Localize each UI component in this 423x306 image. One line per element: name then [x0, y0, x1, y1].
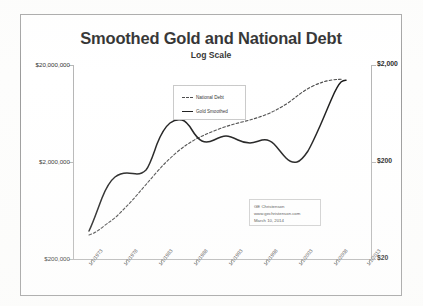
attribution-author: GE Christenson: [254, 203, 316, 210]
legend-label-national-debt: National Debt: [196, 95, 224, 100]
y-tick-right-200: [372, 162, 376, 163]
y-axis-left-label-0: $20,000,000: [36, 61, 70, 68]
y-axis-right-label-0: $2,000: [377, 60, 398, 67]
y-axis-left-label-1: $2,000,000: [39, 158, 70, 165]
x-axis-line: [73, 259, 372, 260]
y-axis-left-labels: $20,000,000 $2,000,000 $200,000: [21, 15, 70, 306]
legend-label-gold-smoothed: Gold Smoothed: [196, 109, 228, 114]
y-axis-right-label-1: $200: [377, 157, 392, 164]
attribution-date: March 10, 2014: [254, 217, 316, 224]
x-axis-labels: 1/1/1973 1/1/1978 1/1/1983 1/1/1988 1/1/…: [73, 261, 372, 306]
legend-item-national-debt: National Debt: [182, 92, 224, 102]
legend-swatch-gold-smoothed: [182, 111, 193, 112]
legend-item-gold-smoothed: Gold Smoothed: [182, 106, 228, 116]
attribution-website: www.gechristenson.com: [254, 210, 316, 217]
y-axis-left-label-2: $200,000: [44, 255, 70, 262]
chart-subtitle: Log Scale: [21, 50, 401, 60]
chart-page: Smoothed Gold and National Debt Log Scal…: [0, 0, 423, 306]
attribution-box: GE Christenson www.gechristenson.com Mar…: [249, 199, 321, 226]
y-tick-right-2000: [372, 65, 376, 66]
chart-legend: National Debt Gold Smoothed: [173, 85, 246, 120]
page-title: Smoothed Gold and National Debt: [21, 29, 401, 48]
legend-swatch-national-debt: [182, 97, 193, 98]
y-axis-right-labels: $2,000 $200 $20: [377, 15, 423, 306]
chart-frame: Smoothed Gold and National Debt Log Scal…: [20, 14, 402, 296]
